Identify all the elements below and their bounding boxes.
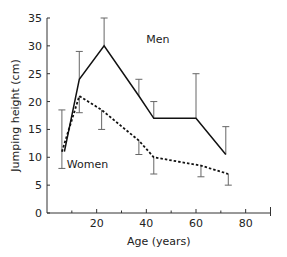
x-tick-label: 60 [189, 217, 203, 230]
series-label: Men [146, 33, 169, 46]
x-axis-label: Age (years) [127, 235, 191, 248]
x-tick-label: 20 [90, 217, 104, 230]
series-women: Women [58, 96, 231, 185]
chart: 05101520253035 20406080 MenWomen Age (ye… [0, 0, 287, 257]
y-tick-label: 20 [28, 96, 42, 109]
y-tick-label: 10 [28, 151, 42, 164]
y-axis: 05101520253035 [28, 12, 50, 220]
y-tick-label: 5 [35, 179, 42, 192]
x-tick-label: 80 [239, 217, 253, 230]
series-men: Men [64, 18, 229, 155]
series-line [64, 46, 225, 155]
plot-area: MenWomen [58, 18, 231, 185]
x-tick-label: 40 [139, 217, 153, 230]
y-tick-label: 0 [35, 207, 42, 220]
y-axis-label: Jumping height (cm) [9, 59, 22, 172]
y-tick-label: 15 [28, 123, 42, 136]
y-tick-label: 25 [28, 68, 42, 81]
x-axis: 20406080 [47, 207, 271, 230]
y-tick-label: 30 [28, 40, 42, 53]
y-tick-label: 35 [28, 12, 42, 25]
series-label: Women [67, 158, 108, 171]
